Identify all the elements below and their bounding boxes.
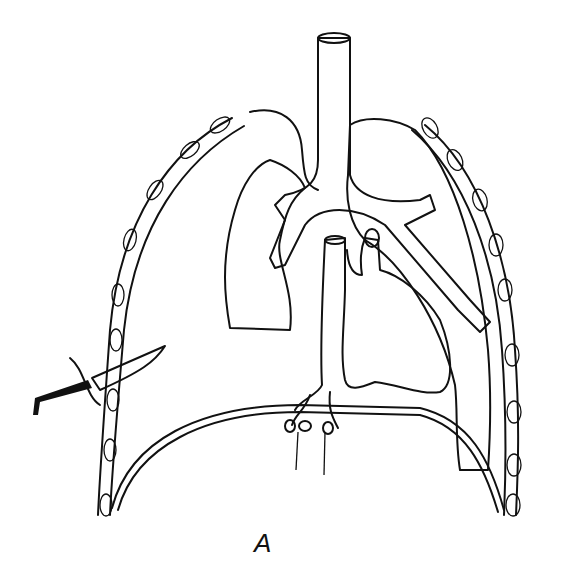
- figure-caption: A: [254, 528, 271, 559]
- knife: [33, 346, 165, 415]
- thorax-diagram: [0, 0, 565, 581]
- chest-wall-left: [98, 114, 244, 516]
- heart: [295, 229, 450, 410]
- pleural-space-left: [250, 110, 318, 190]
- left-lung: [225, 160, 305, 330]
